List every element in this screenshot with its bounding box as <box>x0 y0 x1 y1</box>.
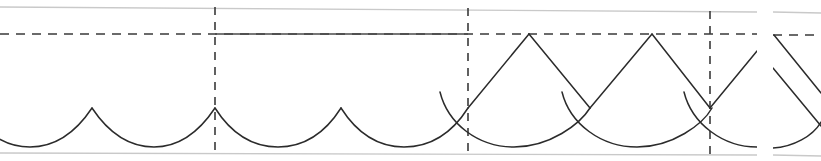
figure-canvas <box>0 0 821 161</box>
prolate-rising-limb-1 <box>590 34 652 108</box>
prolate-falling-limb-2 <box>774 35 821 93</box>
curtate-arc-1 <box>92 108 215 147</box>
upper-rail-tail-line <box>773 12 821 13</box>
dashed-reference-level <box>0 34 821 35</box>
curtate-arc-0 <box>0 108 92 147</box>
prolate-bowl-2 <box>684 92 757 147</box>
upper-rail-line <box>0 7 757 12</box>
curtate-arc-2 <box>215 108 341 147</box>
prolate-bowl-0 <box>440 92 590 147</box>
prolate-bowl-3 <box>773 122 821 148</box>
prolate-falling-limb-0 <box>529 34 590 108</box>
panel-gap-mask <box>757 0 773 161</box>
prolate-falling-limb-1 <box>652 34 710 108</box>
prolate-rising-limb-3 <box>773 68 821 126</box>
lower-rail-tail-line <box>773 155 821 156</box>
curtate-cycloid-curves <box>0 108 468 147</box>
vertical-separators <box>215 7 710 156</box>
prolate-rising-limb-2 <box>710 51 757 108</box>
trochoid-figure: Trochoid family: curtate cycloid arcs on… <box>0 0 821 161</box>
lower-rail-line <box>0 153 757 155</box>
guide-rails <box>0 7 821 156</box>
prolate-rising-limb-0 <box>468 34 529 108</box>
